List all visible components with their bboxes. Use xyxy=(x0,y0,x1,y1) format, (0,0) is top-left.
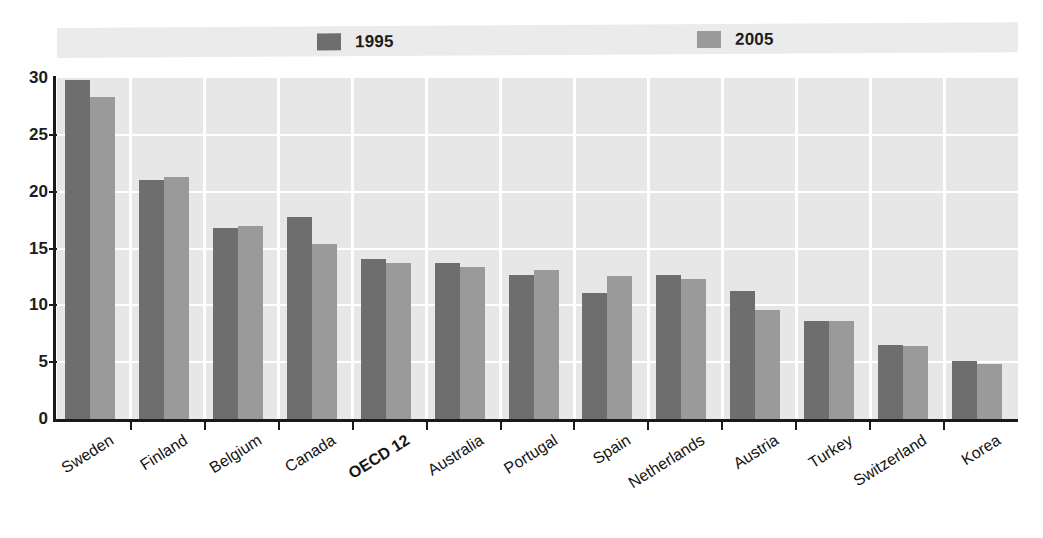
x-tick-mark xyxy=(204,421,206,430)
x-tick-mark xyxy=(943,421,945,430)
y-tick-mark xyxy=(49,134,57,136)
y-tick-label: 0 xyxy=(0,410,48,427)
x-tick-mark xyxy=(869,421,871,430)
y-tick-label: 10 xyxy=(0,296,48,313)
y-tick-label: 25 xyxy=(0,126,48,143)
x-tick-mark xyxy=(573,421,575,430)
y-tick-mark xyxy=(49,304,57,306)
x-tick-mark xyxy=(352,421,354,430)
y-tick-label: 5 xyxy=(0,353,48,370)
x-tick-mark xyxy=(795,421,797,430)
x-tick-mark xyxy=(647,421,649,430)
x-tick-mark xyxy=(500,421,502,430)
x-tick-mark xyxy=(426,421,428,430)
y-tick-mark xyxy=(49,248,57,250)
x-tick-mark xyxy=(130,421,132,430)
x-tick-mark xyxy=(721,421,723,430)
y-tick-mark xyxy=(49,191,57,193)
y-tick-mark xyxy=(49,361,57,363)
y-tick-label: 30 xyxy=(0,69,48,86)
y-tick-label: 15 xyxy=(0,240,48,257)
y-tick-label: 20 xyxy=(0,183,48,200)
bar-chart-figure: 19952005 051015202530 SwedenFinlandBelgi… xyxy=(0,0,1043,538)
x-tick-mark xyxy=(278,421,280,430)
